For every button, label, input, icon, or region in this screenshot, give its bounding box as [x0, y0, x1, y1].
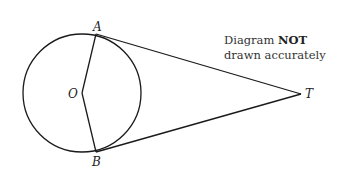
note-line-2: drawn accurately — [224, 48, 326, 63]
label-b: B — [91, 155, 101, 169]
label-a: A — [92, 20, 102, 34]
label-t: T — [305, 87, 314, 101]
radius-ob — [82, 93, 96, 152]
note-bold: NOT — [278, 33, 307, 47]
note-prefix: Diagram — [224, 33, 278, 47]
label-o: O — [68, 87, 78, 101]
note-line-1: Diagram NOT — [224, 33, 326, 48]
tangent-bt — [96, 94, 301, 152]
radius-oa — [82, 34, 96, 93]
geometry-diagram: A B O T — [0, 0, 339, 175]
not-to-scale-note: Diagram NOT drawn accurately — [224, 33, 326, 63]
